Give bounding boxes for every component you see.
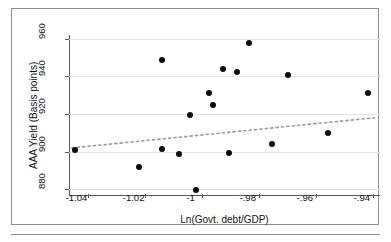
x-axis-tick-label: -1.04 <box>66 192 88 203</box>
data-point <box>269 141 275 147</box>
y-axis-tick <box>65 76 69 77</box>
data-point <box>365 90 371 96</box>
x-axis-tick <box>88 194 89 198</box>
gridline <box>69 114 380 115</box>
plot-area <box>69 35 380 194</box>
y-axis-title: AAA Yield (Basis points) <box>28 35 39 195</box>
data-point <box>220 66 226 72</box>
x-axis-tick-label: -1 <box>186 192 194 203</box>
data-point <box>246 40 252 46</box>
y-axis-tick <box>65 152 69 153</box>
x-axis-tick <box>145 194 146 198</box>
x-axis-tick <box>259 194 260 198</box>
data-point <box>234 69 240 75</box>
x-axis-tick <box>316 194 317 198</box>
bottom-rule <box>11 234 380 235</box>
data-point <box>206 90 212 96</box>
data-point <box>325 130 331 136</box>
data-point <box>285 72 291 78</box>
x-axis-tick-label: -.98 <box>240 192 256 203</box>
data-point <box>210 102 216 108</box>
x-axis-tick-label: -.94 <box>354 192 370 203</box>
x-axis-tick-label: -1.02 <box>123 192 145 203</box>
x-axis-tick <box>202 194 203 198</box>
data-point <box>136 164 142 170</box>
y-axis-tick <box>65 189 69 190</box>
data-point <box>226 150 232 156</box>
x-axis-tick <box>373 194 374 198</box>
y-axis-tick <box>65 114 69 115</box>
data-point <box>176 151 182 157</box>
data-point <box>159 57 165 63</box>
figure-page: 880900920940960 -1.04-1.02-1-.98-.96-.94… <box>0 0 391 242</box>
y-axis-tick <box>65 39 69 40</box>
figure-frame: 880900920940960 -1.04-1.02-1-.98-.96-.94… <box>11 8 379 225</box>
x-axis-spine <box>69 195 380 196</box>
gridline <box>69 76 380 77</box>
data-point <box>187 112 193 118</box>
gridline <box>69 152 380 153</box>
gridline <box>69 39 380 40</box>
x-axis-title: Ln(Govt. debt/GDP) <box>69 214 380 225</box>
x-axis-tick-label: -.96 <box>297 192 313 203</box>
gridline <box>69 189 380 190</box>
